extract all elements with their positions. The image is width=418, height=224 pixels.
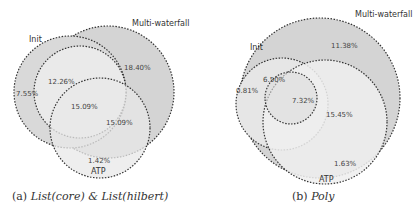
set-label-init-a: Init [29, 35, 42, 44]
region-multi-atp-a: 15.09% [106, 119, 133, 127]
region-init-multi-a: 12.26% [48, 78, 75, 86]
venn-a: Init Multi-waterfall ATP 7.55% 12.26% 18… [14, 19, 189, 178]
region-atp-only-b: 1.63% [334, 160, 357, 168]
caption-b-prefix: (b) [292, 190, 308, 203]
region-multi-only-b: 11.38% [331, 42, 358, 50]
region-init-multi-b: 6.50% [263, 76, 286, 84]
caption-b: (b) Poly [292, 190, 334, 203]
set-label-atp-a: ATP [91, 167, 106, 176]
set-label-multi-b: Multi-waterfall [355, 10, 412, 19]
set-label-atp-b: ATP [319, 175, 334, 184]
region-init-only-a: 7.55% [16, 90, 39, 98]
set-label-multi-a: Multi-waterfall [132, 19, 189, 28]
set-label-init-b: Init [250, 43, 263, 52]
region-multi-only-a: 18.40% [124, 64, 151, 72]
caption-a: (a) List(core) & List(hilbert) [12, 190, 168, 203]
caption-a-prefix: (a) [12, 190, 27, 203]
region-all-three-a: 15.09% [71, 103, 98, 111]
region-init-only-b: 0.81% [236, 87, 259, 95]
caption-b-text: Poly [311, 190, 334, 203]
region-all-three-b: 7.32% [292, 97, 315, 105]
caption-a-text: List(core) & List(hilbert) [31, 190, 169, 203]
region-atp-only-a: 1.42% [88, 157, 111, 165]
venn-b: Init Multi-waterfall ATP 0.81% 6.50% 11.… [236, 10, 412, 184]
region-multi-atp-b: 15.45% [326, 111, 353, 119]
